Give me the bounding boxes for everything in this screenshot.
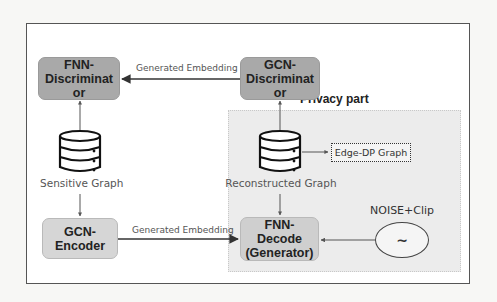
gcn-discriminator-node: GCN- Discriminat or xyxy=(240,57,320,100)
edge-dp-graph-node: Edge-DP Graph xyxy=(331,143,411,162)
sensitive-graph-label: Sensitive Graph xyxy=(40,177,122,189)
noise-clip-label: NOISE+Clip xyxy=(370,204,434,217)
fnn-discriminator-label-1: FNN- xyxy=(64,58,94,72)
top-edge-label: Generated Embedding xyxy=(136,63,238,73)
gcn-encoder-label-2: Encoder xyxy=(55,239,105,253)
fnn-discriminator-label-2: Discriminat xyxy=(45,72,113,86)
fnn-decode-generator-node: FNN- Decode (Generator) xyxy=(240,217,319,261)
fnn-discriminator-label-3: or xyxy=(73,86,86,100)
fnn-decode-label-2: Decode xyxy=(257,232,302,246)
tilde-icon: ~ xyxy=(396,232,408,248)
gcn-discriminator-label-3: or xyxy=(274,86,287,100)
fnn-decode-label-1: FNN- xyxy=(265,218,295,232)
noise-source-node: ~ xyxy=(375,222,429,258)
fnn-discriminator-node: FNN- Discriminat or xyxy=(38,57,120,100)
gcn-discriminator-label-2: Discriminat xyxy=(246,72,314,86)
gcn-encoder-node: GCN- Encoder xyxy=(42,218,118,259)
fnn-decode-label-3: (Generator) xyxy=(245,246,313,260)
gcn-discriminator-label-1: GCN- xyxy=(264,58,296,72)
reconstructed-graph-label: Reconstructed Graph xyxy=(225,177,337,189)
edge-dp-graph-label: Edge-DP Graph xyxy=(335,147,408,158)
gcn-encoder-label-1: GCN- xyxy=(64,225,96,239)
bottom-edge-label: Generated Embedding xyxy=(132,225,234,235)
